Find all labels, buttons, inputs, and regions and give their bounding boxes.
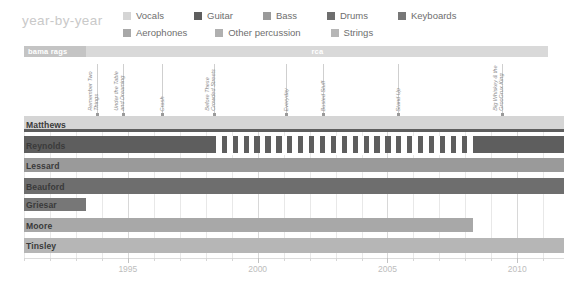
timeline-bar-vocals[interactable]	[24, 116, 564, 129]
axis-line	[24, 258, 564, 259]
album-title-label: Busted Stuff	[319, 53, 325, 111]
record-label-segment[interactable]: rca	[86, 46, 548, 57]
axis-tick-minor	[50, 258, 51, 261]
timeline-row[interactable]	[24, 158, 564, 173]
legend-row-primary: VocalsGuitarBassDrumsKeyboards	[123, 9, 583, 22]
legend-swatch-icon	[398, 12, 406, 20]
axis-tick-minor	[206, 258, 207, 261]
legend: VocalsGuitarBassDrumsKeyboards Aerophone…	[123, 9, 583, 43]
timeline-bar-gap	[391, 136, 397, 155]
timeline-bar-aerophones[interactable]	[24, 218, 473, 232]
legend-item-guitar[interactable]: Guitar	[194, 10, 233, 21]
legend-item-drums[interactable]: Drums	[327, 10, 368, 21]
row-label-matthews: Matthews	[26, 120, 66, 130]
row-label-beauford: Beauford	[26, 182, 65, 192]
timeline-row[interactable]	[24, 136, 564, 155]
axis-tick-minor	[491, 258, 492, 261]
timeline-row[interactable]	[24, 238, 564, 254]
legend-item-strings[interactable]: Strings	[331, 27, 374, 38]
axis-tick-minor	[102, 258, 103, 261]
chart-header: year-by-year VocalsGuitarBassDrumsKeyboa…	[0, 0, 588, 40]
legend-label: Bass	[276, 10, 297, 21]
album-title-label: Before These Crowded Streets	[204, 61, 217, 111]
timeline-bar-gap	[303, 136, 309, 155]
timeline-row[interactable]	[24, 198, 564, 212]
axis-tick-minor	[439, 258, 440, 261]
axis-tick-major	[258, 258, 259, 263]
legend-swatch-icon	[327, 12, 335, 20]
timeline-bar-gap	[271, 136, 277, 155]
timeline-plot: MatthewsReynoldsLessardBeaufordGriesarMo…	[24, 116, 564, 258]
axis-tick-minor	[362, 258, 363, 261]
timeline-bar-gap	[423, 136, 429, 155]
timeline-row[interactable]	[24, 218, 564, 233]
album-title-label: Remember Two Things	[87, 61, 100, 111]
legend-swatch-icon	[215, 29, 223, 37]
axis-tick-label: 1995	[118, 264, 137, 274]
timeline-bar-gap	[401, 136, 407, 155]
record-label-text: bama rags	[24, 47, 67, 56]
legend-item-keyboards[interactable]: Keyboards	[398, 10, 456, 21]
album-title-label: Crash	[158, 53, 164, 111]
legend-swatch-icon	[194, 12, 202, 20]
axis-tick-label: 2000	[248, 264, 267, 274]
legend-label: Other percussion	[228, 27, 300, 38]
legend-item-vocals[interactable]: Vocals	[123, 10, 164, 21]
legend-label: Guitar	[207, 10, 233, 21]
timeline-bar-gap	[216, 136, 222, 155]
timeline-bar-gap	[249, 136, 255, 155]
timeline-bar-gap	[325, 136, 331, 155]
album-marker-group: Remember Two ThingsUnder the Table and D…	[0, 58, 588, 114]
album-title-label: Under the Table and Dreaming	[113, 61, 126, 111]
legend-swatch-icon	[331, 29, 339, 37]
timeline-bar-gap	[282, 136, 288, 155]
axis-tick-major	[387, 258, 388, 263]
timeline-bar-gap	[227, 136, 233, 155]
timeline-bar-guitar[interactable]	[24, 129, 564, 132]
axis-tick-minor	[24, 258, 25, 261]
timeline-row[interactable]	[24, 178, 564, 195]
legend-label: Keyboards	[411, 10, 456, 21]
timeline-bar-gap	[445, 136, 451, 155]
legend-item-other-percussion[interactable]: Other percussion	[215, 27, 300, 38]
timeline-bar-gap	[314, 136, 320, 155]
timeline-bar-drums[interactable]	[24, 178, 564, 194]
timeline-bar-gap	[292, 136, 298, 155]
legend-label: Strings	[344, 27, 374, 38]
axis-tick-label: 2010	[508, 264, 527, 274]
timeline-bar-gap	[358, 136, 364, 155]
axis-tick-major	[128, 258, 129, 263]
legend-swatch-icon	[123, 12, 131, 20]
album-title-label: Stand Up	[394, 53, 400, 111]
row-label-griesar: Griesar	[26, 200, 57, 210]
timeline-bar-bass[interactable]	[24, 158, 564, 172]
album-title-label: Everyday	[283, 53, 289, 111]
axis-tick-major	[517, 258, 518, 263]
legend-row-secondary: AerophonesOther percussionStrings	[123, 26, 583, 39]
legend-item-aerophones[interactable]: Aerophones	[123, 27, 187, 38]
timeline-bar-gap	[260, 136, 266, 155]
timeline-row[interactable]	[24, 116, 564, 133]
record-label-text: rca	[86, 47, 548, 56]
record-label-bar: bama ragsrca	[0, 46, 588, 57]
timeline-bar-gap	[456, 136, 462, 155]
x-axis: 1995200020052010	[24, 258, 564, 281]
timeline-bar-gap	[467, 136, 473, 155]
record-label-segment[interactable]: bama rags	[24, 46, 86, 57]
timeline-bar-gap	[238, 136, 244, 155]
axis-tick-minor	[180, 258, 181, 261]
legend-swatch-icon	[123, 29, 131, 37]
legend-swatch-icon	[263, 12, 271, 20]
timeline-bar-gap	[412, 136, 418, 155]
legend-label: Drums	[340, 10, 368, 21]
album-title-label: Big Whiskey & the GrooGrux King	[492, 61, 505, 111]
axis-tick-minor	[413, 258, 414, 261]
row-label-moore: Moore	[26, 221, 52, 231]
axis-tick-minor	[284, 258, 285, 261]
timeline-bar-gap	[369, 136, 375, 155]
legend-item-bass[interactable]: Bass	[263, 10, 297, 21]
axis-tick-minor	[76, 258, 77, 261]
page-title: year-by-year	[22, 13, 103, 28]
timeline-bar-gap	[347, 136, 353, 155]
timeline-bar-strings[interactable]	[24, 238, 564, 253]
